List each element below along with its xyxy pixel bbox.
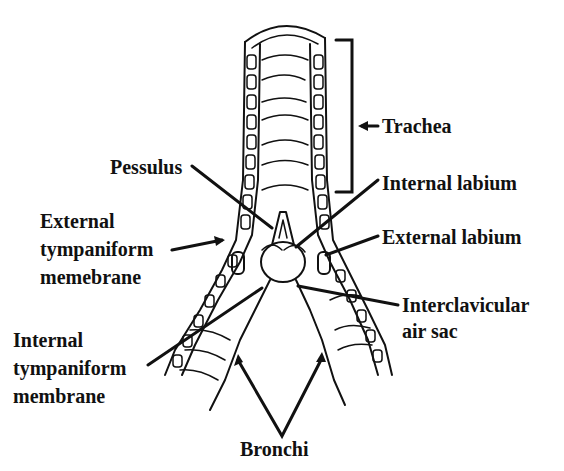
bronchus-right-inner <box>296 280 345 405</box>
label-interclavicular-line2: air sac <box>402 318 458 344</box>
pessulus-shape <box>272 212 294 245</box>
trachea-top-outline <box>245 26 325 42</box>
label-internal-tympaniform-line1: Internal <box>13 327 83 353</box>
label-trachea: Trachea <box>382 113 452 139</box>
label-external-tympaniform-line2: tympaniform <box>40 236 153 262</box>
label-pessulus: Pessulus <box>110 154 182 180</box>
label-external-tympaniform-line3: memebrane <box>40 264 141 290</box>
bronchi-leader <box>238 358 322 436</box>
label-internal-labium: Internal labium <box>382 170 517 196</box>
label-internal-tympaniform-line3: membrane <box>13 383 105 409</box>
label-bronchi: Bronchi <box>240 436 309 462</box>
trachea-right-wall <box>325 38 392 375</box>
external-tympaniform-arrowhead <box>214 236 225 246</box>
trachea-bracket <box>336 40 352 192</box>
tracheal-arcs <box>262 55 308 190</box>
bronchi-arrowhead-right <box>316 352 326 362</box>
syrinx-diagram: Trachea Pessulus Internal labium Externa… <box>0 0 564 471</box>
label-external-labium: External labium <box>382 224 521 250</box>
label-interclavicular-line1: Interclavicular <box>402 292 529 318</box>
label-external-tympaniform-line1: External <box>40 208 114 234</box>
label-internal-tympaniform-line2: tympaniform <box>13 355 126 381</box>
interclavicular-air-sac-shape <box>261 242 305 282</box>
trachea-arrowhead <box>358 121 368 131</box>
pessulus-leader <box>192 166 272 228</box>
external-tympaniform-leader <box>172 240 222 250</box>
